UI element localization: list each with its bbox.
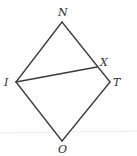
geometry-diagram: N I X T O	[0, 0, 137, 156]
label-I: I	[3, 76, 9, 89]
segment-IN	[16, 22, 62, 82]
label-O: O	[58, 143, 67, 156]
label-X: X	[99, 56, 109, 69]
label-T: T	[113, 76, 122, 89]
label-N: N	[57, 6, 68, 19]
segment-IX	[16, 67, 97, 82]
segment-NT	[62, 22, 110, 82]
